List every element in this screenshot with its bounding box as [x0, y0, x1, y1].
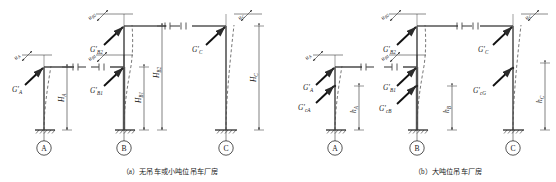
label-H-C-a: HC — [249, 73, 259, 83]
gravity-load-arrow-A — [316, 68, 334, 85]
label-G-cB-b: G′cB — [379, 104, 392, 114]
gravity-load-arrow-C — [206, 27, 225, 45]
label-H-B1-a: HB1 — [134, 91, 144, 104]
label-G-C-a: G′C — [192, 45, 203, 55]
crane-load-arrow-A — [316, 86, 334, 103]
u-B2-arrow — [390, 10, 401, 21]
label-h-C-b: hC — [535, 95, 545, 103]
gravity-load-arrow-B-lower — [104, 68, 123, 86]
crane-load-arrow-C — [493, 68, 512, 86]
u-B2-arrow — [97, 10, 108, 21]
frame-diagram-svg: uA G′A HA A uB2 uB1 G′B2 G′B1 HB1 HB2 B … — [0, 0, 556, 182]
gravity-load-arrow-A — [25, 68, 43, 85]
label-G-B2-a: G′B2 — [90, 45, 103, 55]
deflection-curve-C — [226, 25, 234, 130]
panel-b-caption: （b）大吨位吊车厂房 — [340, 166, 556, 176]
panel-b-column-C — [473, 10, 550, 155]
label-axis-B-b: B — [414, 144, 419, 153]
label-G-A-b: G′A — [303, 83, 314, 93]
u-A-arrow — [313, 51, 323, 61]
label-u-A-a: uA — [12, 51, 22, 61]
label-axis-C-b: C — [510, 144, 515, 153]
deflection-curve-A — [335, 66, 342, 130]
panel-b-group — [313, 10, 550, 155]
gravity-load-arrow-B-upper — [104, 27, 123, 45]
panel-a-column-B — [91, 10, 180, 155]
panel-a-caption: （a）无吊车或小吨位吊车厂房 — [62, 166, 278, 176]
gravity-load-arrow-B-lower — [397, 68, 416, 86]
label-h-B-b: hB — [442, 105, 452, 113]
panel-b-column-B — [384, 10, 472, 155]
label-axis-A-b: A — [332, 144, 338, 153]
u-A-arrow — [22, 51, 32, 61]
deflection-curve-B — [124, 25, 133, 130]
label-G-cG-b: G′cG — [473, 86, 486, 96]
label-u-C-b: uC — [523, 11, 533, 21]
panel-a-group — [22, 10, 264, 155]
label-h-A-b: hA — [349, 105, 359, 113]
deflection-curve-A — [44, 66, 51, 130]
panel-b-column-A — [313, 51, 374, 155]
deflection-curve-C — [513, 25, 521, 130]
crane-load-point-B — [416, 85, 418, 87]
structural-frame-figure: uA G′A HA A uB2 uB1 G′B2 G′B1 HB1 HB2 B … — [0, 0, 556, 182]
label-G-B1-b: G′B1 — [383, 83, 396, 93]
label-u-A-b: uA — [303, 51, 313, 61]
label-layer: uA G′A HA A uB2 uB1 G′B2 G′B1 HB1 HB2 B … — [12, 10, 545, 153]
label-u-C-a: uC — [236, 11, 246, 21]
label-G-B2-b: G′B2 — [383, 45, 396, 55]
crane-load-point-A — [334, 85, 336, 87]
label-axis-A-a: A — [41, 144, 47, 153]
label-G-A-a: G′A — [12, 85, 23, 95]
label-u-B2-a: uB2 — [86, 10, 98, 22]
gravity-load-arrow-C — [493, 27, 512, 45]
label-G-C-b: G′C — [478, 45, 489, 55]
crane-load-point-C — [512, 67, 514, 69]
gravity-load-arrow-B-upper — [397, 27, 416, 45]
label-G-cA-b: G′cA — [298, 103, 311, 113]
label-G-B1-a: G′B1 — [90, 86, 103, 96]
label-axis-C-a: C — [223, 144, 228, 153]
panel-a-column-A — [22, 51, 86, 155]
label-H-A-a: HA — [57, 93, 67, 103]
label-u-B2-b: uB2 — [379, 10, 391, 22]
deflection-curve-B — [417, 25, 426, 130]
crane-load-arrow-B — [397, 86, 416, 104]
label-axis-B-a: B — [121, 144, 126, 153]
label-H-B2-a: HB2 — [152, 66, 162, 79]
